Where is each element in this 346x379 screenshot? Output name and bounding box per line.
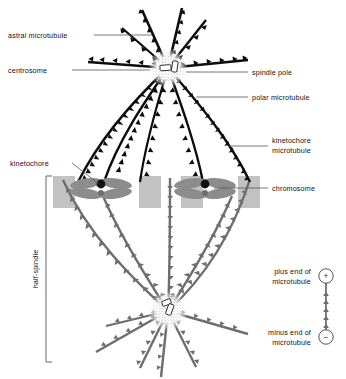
label-astral-microtubule: astral microtubule <box>8 31 67 40</box>
label-chromosome: chromosome <box>272 184 315 193</box>
kinetochore-dot <box>97 180 106 189</box>
top-centrosome <box>148 48 188 88</box>
bottom-centrosome <box>148 291 188 331</box>
label-kinetochore-microtubule-line2: microtubule <box>272 146 311 155</box>
label-kinetochore: kinetochore <box>10 159 49 168</box>
kinetochore-dot-lower <box>98 190 104 196</box>
label-centrosome: centrosome <box>8 66 47 75</box>
label-polar-microtubule: polar microtubule <box>252 93 310 102</box>
kinetochore-dot-lower <box>202 190 208 196</box>
legend-minus-line1: minus end of <box>268 328 311 337</box>
spindle-diagram: astral microtubule centrosome spindle po… <box>0 0 346 379</box>
legend-minus-line2: microtubule <box>272 338 311 347</box>
legend-plus-line1: plus end of <box>274 267 311 276</box>
label-spindle-pole: spindle pole <box>252 68 292 77</box>
label-half-spindle: half-spindle <box>31 250 40 289</box>
legend-plus-line2: microtubule <box>272 277 311 286</box>
gray-rectangle <box>139 176 161 208</box>
plus-end-symbol: + <box>324 271 329 281</box>
minus-end-symbol: − <box>324 332 329 342</box>
kinetochore-dot <box>201 180 210 189</box>
label-kinetochore-microtubule-line1: kinetochore <box>272 136 311 145</box>
